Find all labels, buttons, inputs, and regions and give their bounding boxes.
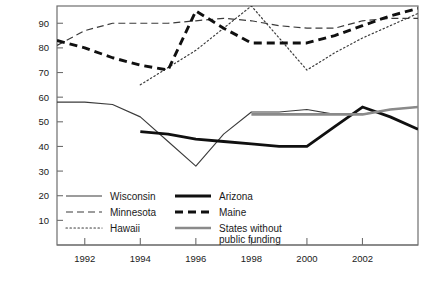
x-tick-label: 1994 [130, 253, 151, 264]
legend-label: Hawaii [110, 223, 140, 234]
line-chart: 102030405060708090 199219941996199820002… [0, 0, 429, 281]
legend-label: States without [219, 223, 282, 234]
y-tick-label: 40 [38, 141, 49, 152]
x-tick-label: 2000 [296, 253, 317, 264]
legend-label: Arizona [219, 191, 253, 202]
y-tick-label: 80 [38, 42, 49, 53]
x-tick-label: 1998 [241, 253, 262, 264]
x-tick-label: 2002 [352, 253, 373, 264]
y-tick-label: 60 [38, 92, 49, 103]
y-tick-label: 90 [38, 18, 49, 29]
y-tick-label: 70 [38, 67, 49, 78]
y-tick-label: 30 [38, 166, 49, 177]
x-tick-label: 1996 [185, 253, 206, 264]
chart-canvas: 102030405060708090 199219941996199820002… [0, 0, 429, 281]
y-tick-label: 50 [38, 116, 49, 127]
legend-label: Wisconsin [110, 191, 156, 202]
legend-label-line2: public funding [219, 234, 281, 245]
y-tick-label: 20 [38, 190, 49, 201]
y-tick-label: 10 [38, 215, 49, 226]
legend-label: Maine [219, 207, 247, 218]
legend-label: Minnesota [110, 207, 157, 218]
x-tick-label: 1992 [74, 253, 95, 264]
